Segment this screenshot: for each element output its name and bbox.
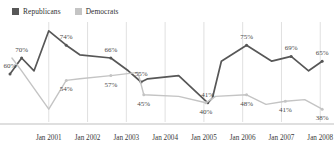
data-point-democrats xyxy=(65,79,68,82)
series-layer xyxy=(9,31,324,111)
data-label-democrats: 45% xyxy=(137,100,150,108)
data-label-democrats: 40% xyxy=(199,108,212,116)
data-label-republicans: 60% xyxy=(4,62,17,70)
x-tick-jan-2003: Jan 2003 xyxy=(113,134,139,142)
legend-item-republicans: Republicans xyxy=(12,7,61,16)
data-point-republicans xyxy=(9,73,12,76)
x-tick-jan-2005: Jan 2005 xyxy=(191,134,217,142)
legend-label-republicans: Republicans xyxy=(23,7,61,16)
data-point-democrats xyxy=(321,108,324,111)
data-label-republicans: 55% xyxy=(135,70,148,78)
data-label-republicans: 74% xyxy=(60,33,73,41)
x-axis: Jan 2001Jan 2002Jan 2003Jan 2004Jan 2005… xyxy=(0,128,334,150)
data-point-democrats xyxy=(245,93,248,96)
chart-legend: Republicans Democrats xyxy=(12,7,119,16)
data-label-democrats: 48% xyxy=(240,100,253,108)
data-point-democrats xyxy=(109,74,112,77)
data-label-republicans: 66% xyxy=(104,46,117,54)
data-point-democrats xyxy=(284,100,287,103)
data-label-democrats: 38% xyxy=(316,114,329,122)
legend-label-democrats: Democrats xyxy=(86,7,119,16)
x-tick-jan-2007: Jan 2007 xyxy=(269,134,295,142)
data-point-democrats xyxy=(142,93,145,96)
data-point-republicans xyxy=(290,55,293,58)
data-label-republicans: 70% xyxy=(15,46,28,54)
x-tick-jan-2001: Jan 2001 xyxy=(36,134,62,142)
chart-container: Republicans Democrats 60%70%74%66%55%41%… xyxy=(0,0,334,154)
x-tick-jan-2004: Jan 2004 xyxy=(152,134,178,142)
x-tick-jan-2008: Jan 2008 xyxy=(307,134,333,142)
legend-swatch-democrats xyxy=(75,8,82,15)
data-label-democrats: 41% xyxy=(279,106,292,114)
data-point-republicans xyxy=(65,44,68,47)
data-point-republicans xyxy=(245,44,248,47)
data-label-democrats: 54% xyxy=(60,85,73,93)
data-label-republicans: 41% xyxy=(201,91,214,99)
plot-area: 60%70%74%66%55%41%75%69%65%54%57%45%40%4… xyxy=(0,22,334,126)
data-label-democrats: 57% xyxy=(104,81,117,89)
data-point-democrats xyxy=(204,101,207,104)
series-line-democrats xyxy=(12,58,322,109)
data-label-republicans: 75% xyxy=(240,33,253,41)
legend-item-democrats: Democrats xyxy=(75,7,119,16)
data-point-republicans xyxy=(321,60,324,63)
data-point-republicans xyxy=(109,57,112,60)
data-point-republicans xyxy=(20,57,23,60)
legend-swatch-republicans xyxy=(12,8,19,15)
x-tick-jan-2006: Jan 2006 xyxy=(230,134,256,142)
x-tick-jan-2002: Jan 2002 xyxy=(75,134,101,142)
data-label-republicans: 65% xyxy=(316,49,329,57)
data-label-republicans: 69% xyxy=(285,44,298,52)
series-line-republicans xyxy=(10,31,322,103)
